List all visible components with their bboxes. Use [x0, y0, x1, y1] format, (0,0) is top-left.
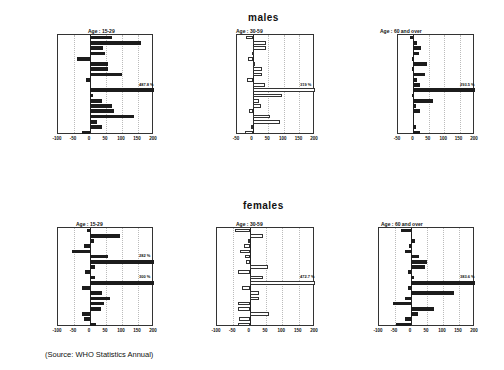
bar — [413, 115, 414, 119]
bar — [90, 307, 101, 311]
x-tick-label: -100 — [373, 328, 382, 333]
bar — [251, 125, 253, 129]
bar — [82, 286, 90, 290]
bar — [253, 115, 271, 119]
bar — [413, 83, 419, 87]
x-tick-label: 100 — [117, 328, 125, 333]
bar — [242, 286, 249, 290]
bar — [413, 109, 420, 113]
x-tick-label: -50 — [233, 136, 240, 141]
bar — [238, 270, 250, 274]
x-tick-label: 150 — [294, 328, 302, 333]
bar — [90, 234, 120, 238]
bar — [90, 291, 102, 295]
bar — [413, 104, 415, 108]
bar — [413, 62, 427, 66]
bar — [413, 78, 417, 82]
x-tick-label: 0 — [247, 328, 250, 333]
bar — [411, 307, 434, 311]
bar — [250, 312, 270, 316]
bar — [247, 78, 253, 82]
bar — [250, 281, 315, 285]
bar — [253, 62, 255, 66]
bar — [90, 281, 154, 285]
gridline — [106, 228, 107, 325]
bar — [401, 229, 411, 233]
x-tick-label: 150 — [295, 136, 303, 141]
bar — [248, 57, 253, 61]
bar — [413, 46, 421, 50]
x-tick-label: -50 — [391, 328, 398, 333]
bar — [413, 73, 424, 77]
males-title: males — [248, 12, 279, 23]
value-annotation: 472.7 % — [300, 274, 315, 279]
bar — [250, 276, 264, 280]
x-tick-label: 200 — [470, 136, 478, 141]
bar — [411, 276, 414, 280]
bar — [405, 250, 411, 254]
x-tick-label: 100 — [279, 136, 287, 141]
bar — [253, 83, 265, 87]
x-tick-label: -50 — [70, 328, 77, 333]
bar — [249, 109, 253, 113]
bar — [90, 46, 103, 50]
bar — [253, 41, 267, 45]
bar — [244, 244, 250, 248]
x-tick-label: 50 — [265, 136, 270, 141]
gridline — [443, 228, 444, 325]
x-tick-label: 150 — [454, 328, 462, 333]
x-tick-label: 50 — [262, 328, 267, 333]
bar — [410, 36, 413, 40]
bar — [238, 307, 250, 311]
x-tick-label: 0 — [88, 136, 91, 141]
x-tick-label: -50 — [229, 328, 236, 333]
bar — [90, 109, 114, 113]
value-annotation: 487.8 % — [139, 82, 154, 87]
x-tick-label: 150 — [133, 328, 141, 333]
bar — [411, 312, 418, 316]
x-tick-label: -100 — [52, 328, 61, 333]
bar — [411, 281, 475, 285]
bar — [412, 57, 414, 61]
bar — [90, 52, 105, 56]
females-title: females — [243, 200, 284, 211]
x-tick-label: 200 — [149, 328, 157, 333]
bar — [411, 260, 427, 264]
bar — [90, 99, 102, 103]
bar — [252, 52, 254, 56]
bar — [240, 250, 250, 254]
bar — [253, 88, 315, 92]
bar — [239, 317, 250, 321]
bar — [411, 255, 419, 259]
bar — [253, 73, 262, 77]
bar — [413, 99, 433, 103]
x-tick-label: 100 — [278, 328, 286, 333]
bar — [250, 291, 259, 295]
x-tick-label: 0 — [409, 328, 412, 333]
x-tick-label: -50 — [70, 136, 77, 141]
gridline — [444, 35, 445, 133]
bar — [413, 125, 416, 129]
bar — [90, 120, 97, 124]
x-tick-label: 200 — [310, 328, 318, 333]
bar — [90, 94, 93, 98]
x-tick-label: 100 — [117, 136, 125, 141]
bar — [86, 78, 90, 82]
x-tick-label: 150 — [133, 136, 141, 141]
bar — [253, 104, 261, 108]
x-tick-label: 0 — [250, 136, 253, 141]
gridline — [282, 228, 283, 325]
bar — [90, 36, 112, 40]
bar — [90, 115, 134, 119]
bar — [393, 302, 411, 306]
bar — [85, 270, 90, 274]
bar — [235, 229, 250, 233]
x-tick-label: 50 — [102, 136, 107, 141]
bar — [408, 270, 411, 274]
bar — [90, 88, 154, 92]
bar — [90, 104, 112, 108]
bar — [253, 67, 262, 71]
bar — [253, 46, 266, 50]
value-annotation: 319 % — [300, 82, 311, 87]
gridline — [74, 35, 75, 133]
